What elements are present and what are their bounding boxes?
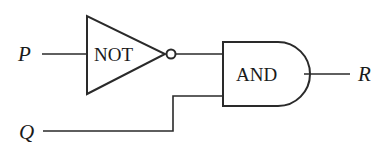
output-label-r: R bbox=[357, 62, 371, 86]
not-gate: NOT bbox=[87, 16, 176, 94]
input-label-p: P bbox=[17, 42, 31, 66]
logic-circuit-diagram: P NOT Q AND R bbox=[0, 0, 392, 151]
and-gate: AND bbox=[223, 42, 310, 106]
inversion-bubble-icon bbox=[167, 50, 176, 59]
wire-q-to-and bbox=[43, 96, 223, 131]
not-gate-label: NOT bbox=[94, 44, 133, 65]
input-label-q: Q bbox=[19, 120, 34, 144]
and-gate-label: AND bbox=[236, 64, 277, 85]
